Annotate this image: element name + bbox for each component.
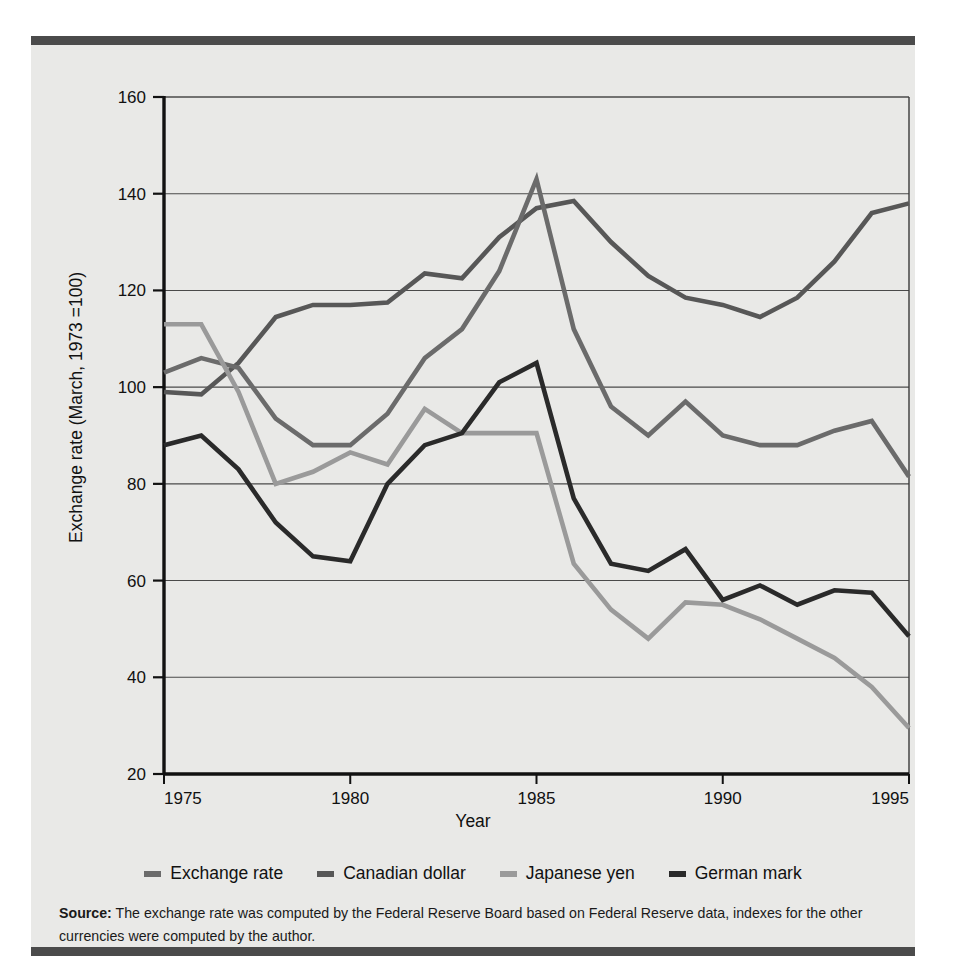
legend-label: German mark [695,863,802,884]
top-rule [31,36,915,45]
legend-swatch-icon [669,871,686,877]
y-tick-label: 80 [127,475,146,494]
y-axis-title: Exchange rate (March, 1973 =100) [66,108,87,708]
legend-item: Canadian dollar [317,863,466,884]
legend-item: German mark [669,863,802,884]
legend-label: Japanese yen [526,863,635,884]
y-tick-label: 60 [127,572,146,591]
legend-swatch-icon [500,871,517,877]
y-tick-label: 20 [127,765,146,784]
legend-item: Japanese yen [500,863,635,884]
y-tick-label: 100 [118,378,146,397]
y-tick-label: 160 [118,88,146,107]
x-axis-title: Year [31,811,915,832]
y-tick-label: 120 [118,281,146,300]
figure-page: 1601401201008060402019751980198519901995… [0,0,962,976]
legend-item: Exchange rate [144,863,283,884]
series-line [164,324,909,728]
source-label: Source: [59,905,112,921]
x-tick-label: 1990 [704,789,742,808]
chart-figure: 1601401201008060402019751980198519901995… [31,36,915,956]
bottom-rule [31,947,915,956]
chart-legend: Exchange rateCanadian dollarJapanese yen… [31,863,915,884]
x-tick-label: 1985 [518,789,556,808]
y-tick-label: 40 [127,668,146,687]
legend-swatch-icon [144,871,161,877]
series-line [164,363,909,636]
source-text: The exchange rate was computed by the Fe… [59,905,862,944]
y-tick-label: 140 [118,185,146,204]
legend-label: Canadian dollar [343,863,466,884]
x-tick-label: 1980 [331,789,369,808]
legend-swatch-icon [317,871,334,877]
plot-area: 1601401201008060402019751980198519901995… [31,45,915,835]
source-note: Source: The exchange rate was computed b… [59,902,889,948]
x-tick-label: 1995 [871,789,909,808]
x-tick-label: 1975 [164,789,202,808]
legend-label: Exchange rate [170,863,283,884]
line-chart-svg: 1601401201008060402019751980198519901995 [31,45,915,835]
